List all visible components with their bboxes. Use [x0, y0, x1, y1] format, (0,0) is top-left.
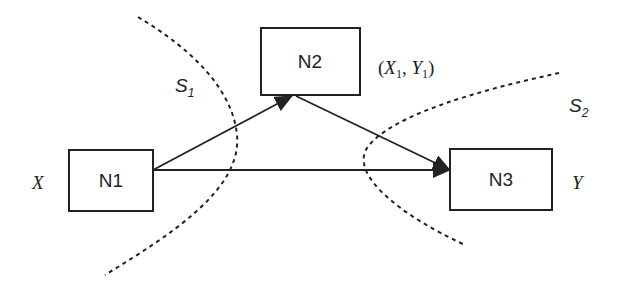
node-n1: N1 [69, 150, 153, 211]
node-n1-input-label: X [31, 172, 45, 193]
boundary-s1-label: S1 [175, 75, 194, 100]
node-n2-label: N2 [298, 51, 322, 72]
node-n3-label: N3 [489, 169, 513, 190]
edge-n1-n2 [153, 96, 292, 170]
boundary-s1 [105, 17, 237, 275]
node-n2: N2 [261, 28, 360, 95]
boundary-s2-label: S2 [569, 95, 589, 120]
node-n3: N3 [450, 149, 552, 210]
edge-n2-n3 [296, 96, 450, 170]
node-n2-coordinate-label: (X1, Y1) [378, 57, 434, 81]
node-n3-output-label: Y [572, 172, 585, 193]
node-n1-label: N1 [99, 170, 123, 191]
network-diagram: S1 S2 N1 X N2 (X1, Y1) N3 Y [0, 0, 620, 286]
